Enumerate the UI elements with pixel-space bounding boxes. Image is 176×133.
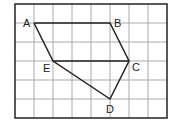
point-label-a: A (23, 17, 31, 29)
point-label-b: B (114, 17, 121, 29)
point-label-c: C (132, 61, 140, 73)
point-label-e: E (43, 62, 50, 74)
grid-diagram: A B C D E (0, 0, 176, 133)
point-label-d: D (106, 103, 114, 115)
